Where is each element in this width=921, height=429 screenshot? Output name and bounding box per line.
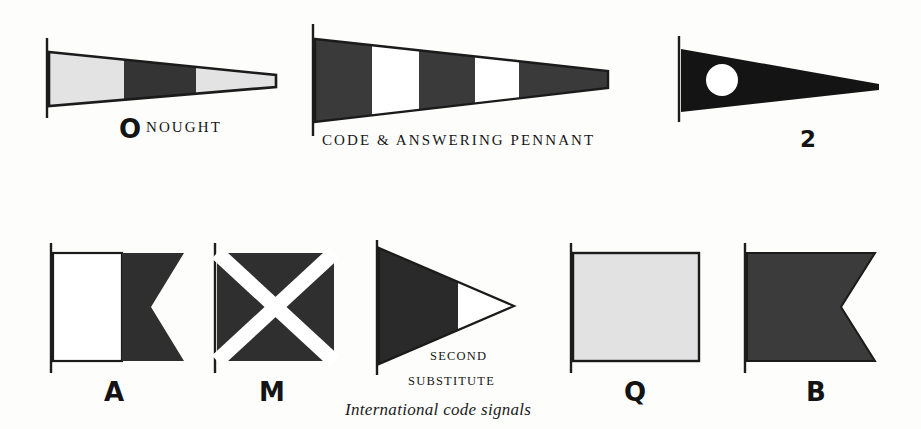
pennant-two-disc	[706, 64, 738, 96]
flag-q	[568, 243, 708, 373]
flag-a-fly-dark	[122, 253, 184, 361]
label-second-substitute-line2: SUBSTITUTE	[408, 375, 495, 388]
flag-a-hoist-white	[53, 253, 122, 361]
label-flag-a-glyph: A	[104, 379, 124, 405]
label-flag-q-glyph: Q	[624, 379, 646, 405]
label-second-substitute-line1: SECOND	[430, 350, 487, 363]
flag-b	[742, 243, 892, 373]
pennant-code-answering	[310, 24, 620, 136]
stripe-white-2	[475, 24, 519, 136]
flag-m	[212, 243, 352, 373]
flag-a	[48, 243, 198, 373]
stripe-dark-3	[519, 24, 620, 136]
stripe-dark-2	[419, 24, 475, 136]
band-dark	[124, 38, 196, 118]
pennant-two	[676, 36, 886, 122]
pennant-nought	[44, 38, 284, 118]
band-light-2	[196, 38, 284, 118]
stripe-white-1	[372, 24, 419, 136]
label-flag-b-glyph: B	[806, 379, 826, 405]
label-pennant-two-glyph: 2	[800, 128, 816, 151]
label-flag-m-glyph: M	[259, 379, 285, 405]
plate-caption: International code signals	[345, 400, 531, 420]
label-pennant-nought-glyph: O	[119, 116, 141, 142]
label-pennant-code-answering-name: CODE & ANSWERING PENNANT	[322, 133, 595, 148]
flag-q-field	[573, 253, 699, 361]
code-signals-plate: O NOUGHT CODE & ANSWERING PENNANT	[0, 0, 921, 429]
label-pennant-nought-name: NOUGHT	[146, 120, 222, 135]
flag-b-field	[747, 253, 875, 361]
